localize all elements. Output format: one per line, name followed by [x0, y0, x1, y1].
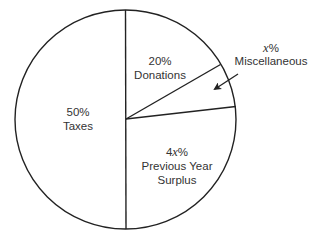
slice-label-donations-pct: 20% — [148, 55, 171, 67]
slice-label-taxes-pct: 50% — [66, 106, 89, 118]
divider-taxes — [126, 10, 127, 229]
slice-label-misc-pct: x% — [262, 41, 279, 55]
slice-label-misc: Miscellaneous — [235, 55, 308, 67]
slice-label-surplus-line1: Previous Year — [142, 160, 213, 172]
slice-label-surplus-pct: 4x% — [166, 145, 188, 159]
slice-label-donations: Donations — [134, 69, 186, 81]
slice-label-taxes: Taxes — [63, 120, 93, 132]
pie-chart: 50% Taxes 20% Donations x% Miscellaneous… — [0, 0, 318, 238]
slice-label-surplus-line2: Surplus — [158, 174, 197, 186]
